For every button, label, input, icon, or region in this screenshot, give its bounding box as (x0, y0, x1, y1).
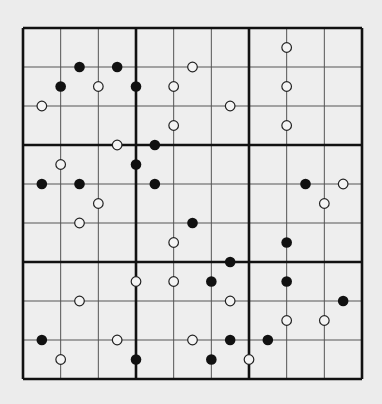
cell-r9c6[interactable] (211, 340, 249, 379)
black-dot-icon (281, 237, 292, 248)
cell-r6c2[interactable] (61, 223, 99, 262)
cell-r4c8[interactable] (287, 145, 325, 184)
cell-r3c1[interactable] (23, 106, 61, 145)
cell-r3c6[interactable] (211, 106, 249, 145)
cell-r3c3[interactable] (98, 106, 136, 145)
black-dot-icon (131, 354, 142, 365)
cell-r9c5[interactable] (174, 340, 212, 379)
cell-r2c8[interactable] (287, 67, 325, 106)
cell-r6c9[interactable] (324, 223, 362, 262)
cell-r7c8[interactable] (287, 262, 325, 301)
cell-r7c3[interactable] (98, 262, 136, 301)
cell-r1c7[interactable] (249, 28, 287, 67)
kropki-sudoku-board (0, 0, 382, 404)
cell-r5c5[interactable] (174, 184, 212, 223)
cell-r3c2[interactable] (61, 106, 99, 145)
cell-r3c4[interactable] (136, 106, 174, 145)
cell-r5c1[interactable] (23, 184, 61, 223)
black-dot-icon (74, 179, 85, 190)
black-dot-icon (187, 218, 198, 229)
cell-r1c9[interactable] (324, 28, 362, 67)
cell-r7c5[interactable] (174, 262, 212, 301)
black-dot-icon (225, 335, 236, 346)
cell-r1c6[interactable] (211, 28, 249, 67)
cell-r9c8[interactable] (287, 340, 325, 379)
cell-r3c7[interactable] (249, 106, 287, 145)
cell-r6c3[interactable] (98, 223, 136, 262)
cell-r5c7[interactable] (249, 184, 287, 223)
white-dot-icon (94, 82, 104, 92)
cell-r4c9[interactable] (324, 145, 362, 184)
cell-r6c4[interactable] (136, 223, 174, 262)
cell-r9c4[interactable] (136, 340, 174, 379)
cell-r1c5[interactable] (174, 28, 212, 67)
cell-r8c5[interactable] (174, 301, 212, 340)
cell-r2c1[interactable] (23, 67, 61, 106)
black-dot-icon (225, 257, 236, 268)
cell-r5c3[interactable] (98, 184, 136, 223)
black-dot-icon (74, 62, 85, 73)
cell-r9c2[interactable] (61, 340, 99, 379)
cell-r7c6[interactable] (211, 262, 249, 301)
cell-r4c5[interactable] (174, 145, 212, 184)
cell-r3c8[interactable] (287, 106, 325, 145)
cell-r4c7[interactable] (249, 145, 287, 184)
white-dot-icon (169, 277, 179, 287)
cell-r2c3[interactable] (98, 67, 136, 106)
cell-r5c2[interactable] (61, 184, 99, 223)
cell-r6c8[interactable] (287, 223, 325, 262)
cell-r1c3[interactable] (98, 28, 136, 67)
cell-r4c2[interactable] (61, 145, 99, 184)
cell-r6c6[interactable] (211, 223, 249, 262)
white-dot-icon (282, 43, 292, 53)
cell-r7c1[interactable] (23, 262, 61, 301)
cell-r2c9[interactable] (324, 67, 362, 106)
cell-r6c7[interactable] (249, 223, 287, 262)
cell-r9c1[interactable] (23, 340, 61, 379)
cell-r8c1[interactable] (23, 301, 61, 340)
cell-r7c4[interactable] (136, 262, 174, 301)
white-dot-icon (188, 62, 198, 72)
cell-r9c3[interactable] (98, 340, 136, 379)
cell-r6c1[interactable] (23, 223, 61, 262)
white-dot-icon (94, 199, 104, 209)
cell-r6c5[interactable] (174, 223, 212, 262)
black-dot-icon (263, 335, 274, 346)
cell-r3c5[interactable] (174, 106, 212, 145)
cell-r4c3[interactable] (98, 145, 136, 184)
cell-r2c6[interactable] (211, 67, 249, 106)
cell-r4c6[interactable] (211, 145, 249, 184)
cell-r1c1[interactable] (23, 28, 61, 67)
cell-r4c4[interactable] (136, 145, 174, 184)
cell-r2c4[interactable] (136, 67, 174, 106)
cell-r1c4[interactable] (136, 28, 174, 67)
cell-r8c2[interactable] (61, 301, 99, 340)
cell-r7c9[interactable] (324, 262, 362, 301)
cell-r1c8[interactable] (287, 28, 325, 67)
cell-r9c7[interactable] (249, 340, 287, 379)
cell-r8c9[interactable] (324, 301, 362, 340)
cell-r8c8[interactable] (287, 301, 325, 340)
cell-r8c3[interactable] (98, 301, 136, 340)
cell-r3c9[interactable] (324, 106, 362, 145)
white-dot-icon (225, 296, 235, 306)
cell-r8c7[interactable] (249, 301, 287, 340)
cell-r8c6[interactable] (211, 301, 249, 340)
cell-r1c2[interactable] (61, 28, 99, 67)
cell-r5c8[interactable] (287, 184, 325, 223)
cell-grid[interactable] (23, 28, 362, 379)
white-dot-icon (320, 199, 330, 209)
cell-r8c4[interactable] (136, 301, 174, 340)
cell-r2c5[interactable] (174, 67, 212, 106)
cell-r7c2[interactable] (61, 262, 99, 301)
cell-r5c6[interactable] (211, 184, 249, 223)
cell-r4c1[interactable] (23, 145, 61, 184)
cell-r5c9[interactable] (324, 184, 362, 223)
cell-r7c7[interactable] (249, 262, 287, 301)
cell-r5c4[interactable] (136, 184, 174, 223)
black-dot-icon (37, 179, 48, 190)
cell-r2c2[interactable] (61, 67, 99, 106)
white-dot-icon (169, 82, 179, 92)
cell-r2c7[interactable] (249, 67, 287, 106)
cell-r9c9[interactable] (324, 340, 362, 379)
